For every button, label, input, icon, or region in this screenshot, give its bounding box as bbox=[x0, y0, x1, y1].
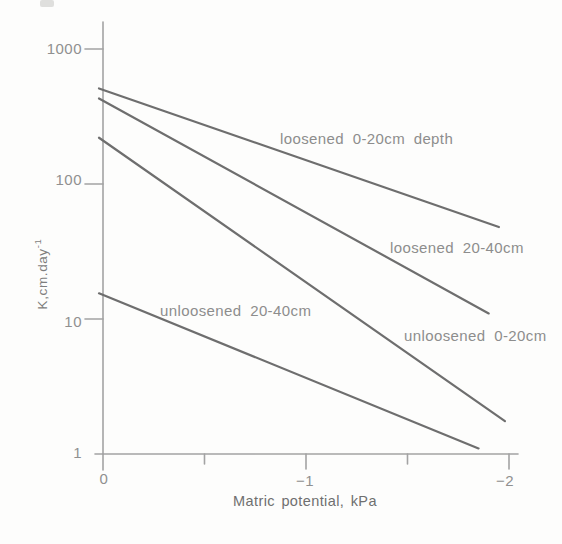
chart-canvas bbox=[0, 0, 562, 544]
y-tick-label-100: 100 bbox=[28, 172, 82, 188]
y-axis-title-exponent: -1 bbox=[32, 239, 43, 249]
data-line-0 bbox=[99, 88, 499, 227]
x-tick-label-0: 0 bbox=[96, 471, 112, 487]
x-tick-label-minus2: −2 bbox=[490, 473, 520, 489]
y-axis-title-base: K,cm.day bbox=[35, 248, 50, 309]
x-axis-title: Matric potential, kPa bbox=[195, 493, 415, 509]
y-tick-label-1000: 1000 bbox=[28, 41, 82, 57]
y-axis-title: K,cm.day-1 bbox=[32, 214, 52, 334]
y-tick-label-1: 1 bbox=[28, 445, 82, 461]
series-label-loosened-20-40cm: loosened 20-40cm bbox=[390, 239, 524, 256]
series-label-unloosened-20-40cm: unloosened 20-40cm bbox=[160, 302, 311, 319]
data-line-2 bbox=[99, 138, 505, 421]
series-label-unloosened-0-20cm: unloosened 0-20cm bbox=[404, 327, 547, 344]
x-tick-label-minus1: −1 bbox=[290, 473, 320, 489]
conductivity-chart-figure: 1000 100 10 1 0 −1 −2 Matric potential, … bbox=[0, 0, 562, 544]
series-label-loosened-0-20cm: loosened 0-20cm depth bbox=[280, 130, 453, 147]
